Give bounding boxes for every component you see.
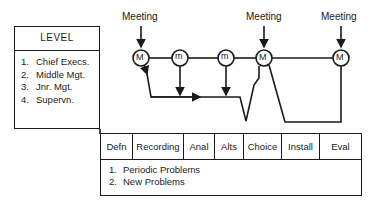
node-label: M [336, 52, 344, 62]
phase-defn: Defn [101, 134, 133, 159]
phase-choice: Choice [244, 134, 282, 159]
level-item: 1.Chief Execs. [21, 56, 89, 69]
node-label: M [136, 52, 144, 62]
phase-alts: Alts [215, 134, 244, 159]
problem-item: 2.New Problems [109, 176, 200, 188]
problem-item: 1.Periodic Problems [109, 164, 200, 176]
phase-install: Install [282, 134, 320, 159]
meeting-label-2: Meeting [246, 11, 282, 22]
node-label: m [175, 51, 183, 61]
problem-list: 1.Periodic Problems 2.New Problems [109, 164, 200, 188]
node-label: m [221, 51, 229, 61]
phase-row: Defn Recording Anal Alts Choice Install … [101, 134, 361, 160]
phase-eval: Eval [320, 134, 361, 159]
phase-anal: Anal [184, 134, 215, 159]
meeting-label-3: Meeting [321, 11, 357, 22]
level-item: 2.Middle Mgt. [21, 69, 89, 82]
level-box: LEVEL 1.Chief Execs. 2.Middle Mgt. 3.Jnr… [14, 26, 100, 129]
meeting-label-1: Meeting [122, 11, 158, 22]
level-item: 3.Jnr. Mgt. [21, 81, 89, 94]
level-list: 1.Chief Execs. 2.Middle Mgt. 3.Jnr. Mgt.… [21, 56, 89, 106]
node-label: M [259, 52, 267, 62]
level-title: LEVEL [15, 27, 99, 51]
phase-recording: Recording [133, 134, 184, 159]
phase-box: Defn Recording Anal Alts Choice Install … [100, 133, 362, 196]
level-item: 4.Supervn. [21, 94, 89, 107]
